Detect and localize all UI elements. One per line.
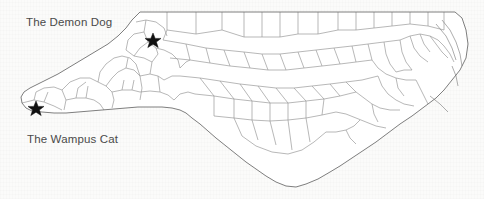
outer-banks-line (430, 96, 448, 112)
annotation-label-wampus-cat: The Wampus Cat (27, 133, 118, 145)
map-page: The Demon Dog The Wampus Cat (0, 0, 484, 199)
north-carolina-map (0, 0, 484, 199)
annotation-label-demon-dog: The Demon Dog (26, 16, 112, 28)
